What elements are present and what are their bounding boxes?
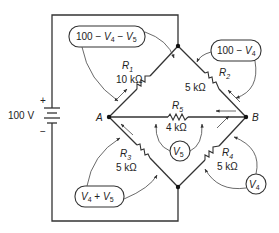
- resistor-r4-icon: [205, 146, 219, 160]
- r1-label: R1: [122, 60, 133, 73]
- r2-label: R2: [219, 67, 230, 80]
- plus-sign: +: [40, 95, 46, 106]
- node-a: [107, 115, 111, 119]
- svg-text:V4 + V5: V4 + V5: [81, 191, 114, 203]
- voltage-box-r2: 100 − V4: [197, 40, 261, 98]
- node-a-label: A: [95, 112, 103, 123]
- node-bottom: [176, 185, 180, 189]
- r4-label: R4: [222, 147, 233, 160]
- r2-value: 5 kΩ: [185, 82, 206, 93]
- resistor-r5-icon: [168, 114, 188, 120]
- r3-value: 5 kΩ: [116, 162, 137, 173]
- bridge-circuit-diagram: + − 100 V A B R1: [0, 0, 279, 233]
- r5-value: 4 kΩ: [166, 122, 187, 133]
- r3-label: R3: [120, 148, 131, 161]
- resistor-r3-icon: [137, 144, 150, 158]
- minus-sign: −: [40, 126, 46, 137]
- node-top: [176, 44, 180, 48]
- source-voltage-label: 100 V: [8, 110, 34, 121]
- resistor-r2-icon: [205, 72, 219, 89]
- svg-text:100 − V4: 100 − V4: [217, 45, 256, 57]
- node-b-label: B: [252, 112, 259, 123]
- node-b: [244, 115, 248, 119]
- svg-text:100 − V4 − V5: 100 − V4 − V5: [76, 31, 137, 43]
- r5-label: R5: [172, 100, 183, 113]
- battery-icon: [44, 100, 60, 132]
- r4-value: 5 kΩ: [217, 161, 238, 172]
- r1-value: 10 kΩ: [116, 74, 143, 85]
